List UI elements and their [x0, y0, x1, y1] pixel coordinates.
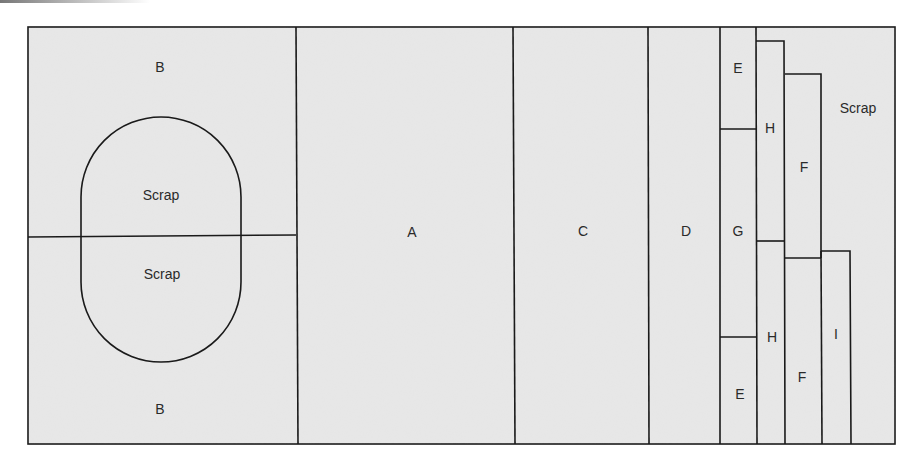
label-scrap-bottom: Scrap	[144, 266, 181, 282]
label-c: C	[578, 223, 588, 239]
divider-e-h	[756, 27, 757, 444]
divider-c-d	[648, 27, 649, 444]
label-g: G	[733, 223, 744, 239]
label-scrap-top: Scrap	[143, 187, 180, 203]
label-e-bottom: E	[735, 386, 744, 402]
label-h-top: H	[765, 120, 775, 136]
cutting-layout-diagram: B Scrap Scrap B A C D E G E H H F F I Sc…	[0, 0, 913, 472]
label-b-bottom: B	[155, 401, 164, 417]
label-f-bottom: F	[798, 369, 807, 385]
divider-f-i	[821, 251, 822, 444]
label-b-top: B	[155, 59, 164, 75]
label-e-top: E	[733, 60, 742, 76]
label-scrap-right: Scrap	[840, 100, 877, 116]
label-i: I	[834, 326, 838, 342]
label-h-bottom: H	[767, 329, 777, 345]
label-d: D	[681, 223, 691, 239]
label-f-top: F	[800, 159, 809, 175]
label-a: A	[407, 224, 417, 240]
